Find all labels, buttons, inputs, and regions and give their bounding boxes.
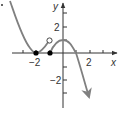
closed-point-neg1-0: [47, 50, 52, 55]
curve-piece-left: [10, 1, 49, 53]
open-point-neg1-1: [47, 38, 52, 43]
function-graph: y x −2 2 2 −2: [0, 0, 123, 120]
closed-point-neg2-0: [33, 50, 38, 55]
y-axis-label: y: [52, 1, 59, 12]
y-axis: [63, 3, 67, 108]
x-axis: [12, 50, 117, 53]
y-tick-label-2: 2: [54, 22, 60, 33]
curve-piece-right: [50, 40, 89, 97]
x-tick-label-2: 2: [86, 57, 92, 68]
x-axis-label: x: [110, 57, 117, 68]
x-tick-label-neg2: −2: [29, 57, 41, 68]
corner-mark: [1, 4, 3, 6]
y-tick-label-neg2: −2: [50, 75, 62, 86]
